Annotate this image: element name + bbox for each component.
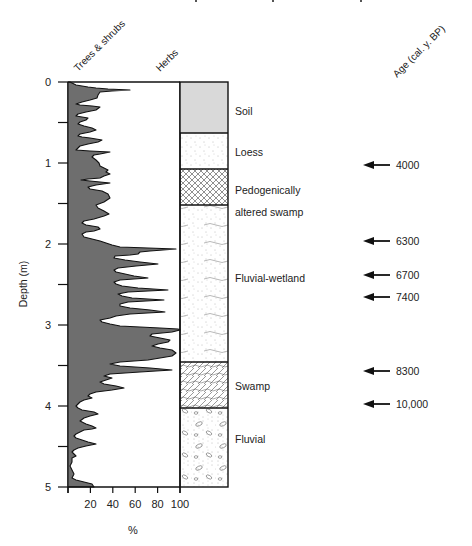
layer-soil	[180, 82, 228, 133]
herbs-header: Herbs	[154, 47, 181, 74]
x-tick-20: 20	[84, 498, 96, 510]
left-arrow-icon	[363, 367, 374, 375]
y-tick-2: 2	[45, 238, 51, 250]
percent-axis-label: %	[128, 524, 138, 536]
age-header: Age (cal. y. BP)	[391, 23, 447, 79]
age-arrow-6300: 6300	[363, 235, 420, 247]
age-markers: 4000 6300 6700 7400 8300 10,000	[363, 159, 428, 410]
y-tick-0: 0	[45, 76, 51, 88]
depth-axis-label: Depth (m)	[17, 261, 29, 308]
svg-text:6300: 6300	[396, 235, 420, 247]
lith-label-pedogenically: Pedogenically	[235, 184, 301, 196]
lithology-column	[180, 82, 228, 487]
age-arrow-8300: 8300	[363, 365, 420, 377]
lith-label-loess: Loess	[235, 146, 263, 158]
svg-text:7400: 7400	[396, 291, 420, 303]
svg-text:10,000: 10,000	[396, 398, 428, 410]
depth-axis: 0 1 2 3 4 5 Depth (m)	[17, 76, 68, 493]
layer-fluvial	[180, 408, 228, 487]
trees-shrubs-header: Trees & shrubs	[72, 18, 127, 73]
x-tick-60: 60	[129, 498, 141, 510]
svg-text:8300: 8300	[396, 365, 420, 377]
age-arrow-4000: 4000	[363, 159, 420, 171]
age-arrow-10000: 10,000	[363, 398, 428, 410]
lithology-labels: Soil Loess Pedogenically altered swamp F…	[235, 105, 305, 445]
cropped-header-text	[195, 0, 362, 2]
left-arrow-icon	[363, 161, 374, 169]
lith-label-altered-swamp: altered swamp	[235, 206, 303, 218]
lith-label-soil: Soil	[235, 105, 253, 117]
layer-pedogenic-swamp	[180, 169, 228, 205]
layer-loess	[180, 133, 228, 169]
x-tick-80: 80	[151, 498, 163, 510]
left-arrow-icon	[363, 400, 374, 408]
layer-fluvial-wetland	[180, 205, 228, 362]
age-arrow-7400: 7400	[363, 291, 420, 303]
x-tick-40: 40	[107, 498, 119, 510]
lith-label-swamp: Swamp	[235, 380, 270, 392]
x-tick-100: 100	[171, 498, 189, 510]
left-arrow-icon	[363, 293, 374, 301]
percent-axis: 20 40 60 80 100 %	[68, 487, 189, 536]
y-tick-3: 3	[45, 319, 51, 331]
y-tick-1: 1	[45, 157, 51, 169]
left-arrow-icon	[363, 237, 374, 245]
left-arrow-icon	[363, 271, 374, 279]
svg-text:4000: 4000	[396, 159, 420, 171]
lith-label-fluvial-wetland: Fluvial-wetland	[235, 272, 305, 284]
age-arrow-6700: 6700	[363, 269, 420, 281]
trees-shrubs-curve	[68, 82, 180, 487]
y-tick-4: 4	[45, 400, 51, 412]
pollen-diagram: Trees & shrubs Herbs Age (cal. y. BP) 0 …	[0, 0, 472, 546]
y-tick-5: 5	[45, 481, 51, 493]
svg-text:6700: 6700	[396, 269, 420, 281]
lith-label-fluvial: Fluvial	[235, 433, 265, 445]
layer-swamp	[180, 362, 228, 408]
